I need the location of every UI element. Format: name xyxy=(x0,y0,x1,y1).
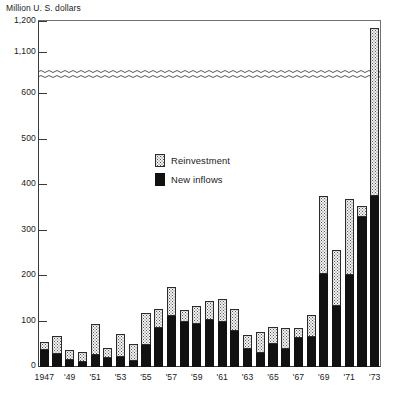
bar-segment-new-inflows xyxy=(294,338,303,367)
bar-segment-new-inflows xyxy=(40,350,49,367)
chart-container: Million U. S. dollars 010020030040050060… xyxy=(0,0,397,397)
bar-segment-new-inflows xyxy=(319,274,328,367)
bar-1955 xyxy=(141,313,150,367)
bar-segment-reinvestment xyxy=(281,328,290,348)
bar-segment-new-inflows xyxy=(281,349,290,367)
bar-segment-reinvestment xyxy=(294,328,303,338)
bar-segment-new-inflows xyxy=(129,361,138,367)
bar-segment-reinvestment xyxy=(370,28,379,195)
y-axis-label: 1,100 xyxy=(0,46,36,56)
bar-segment-new-inflows xyxy=(78,362,87,367)
bar-segment-reinvestment xyxy=(91,324,100,355)
chart-legend: Reinvestment New inflows xyxy=(155,152,230,190)
bar-segment-new-inflows xyxy=(370,196,379,367)
legend-item-new-inflows: New inflows xyxy=(155,171,230,187)
bar-1971 xyxy=(345,199,354,367)
bar-segment-reinvestment xyxy=(205,301,214,321)
bar-1952 xyxy=(103,348,112,367)
bar-segment-reinvestment xyxy=(40,342,49,350)
bar-segment-reinvestment xyxy=(192,306,201,324)
bar-segment-reinvestment xyxy=(65,350,74,360)
bar-segment-reinvestment xyxy=(230,309,239,330)
bar-segment-reinvestment xyxy=(243,335,252,349)
bar-1951 xyxy=(91,324,100,367)
bar-segment-new-inflows xyxy=(91,355,100,367)
legend-swatch-reinvestment xyxy=(155,154,165,167)
bar-1961 xyxy=(218,299,227,367)
bar-segment-new-inflows xyxy=(167,316,176,367)
bar-segment-reinvestment xyxy=(52,336,61,354)
y-axis-label: 500 xyxy=(0,133,36,143)
bar-segment-new-inflows xyxy=(103,358,112,367)
bar-1954 xyxy=(129,344,138,367)
bar-segment-reinvestment xyxy=(116,334,125,358)
y-axis-label: 300 xyxy=(0,224,36,234)
bar-1959 xyxy=(192,306,201,367)
bar-segment-reinvestment xyxy=(332,250,341,306)
bar-segment-reinvestment xyxy=(319,196,328,273)
bar-1948 xyxy=(52,336,61,367)
bar-1970 xyxy=(332,250,341,367)
bar-1972 xyxy=(357,206,366,367)
bar-segment-new-inflows xyxy=(180,322,189,367)
bar-segment-new-inflows xyxy=(307,337,316,367)
bar-segment-reinvestment xyxy=(167,287,176,315)
bar-segment-new-inflows xyxy=(218,322,227,367)
bar-segment-reinvestment xyxy=(154,309,163,328)
legend-label-reinvestment: Reinvestment xyxy=(171,155,230,166)
bar-segment-new-inflows xyxy=(243,349,252,367)
bar-1950 xyxy=(78,352,87,367)
bar-segment-reinvestment xyxy=(345,199,354,275)
bar-segment-new-inflows xyxy=(65,360,74,367)
legend-swatch-new-inflows xyxy=(155,173,165,186)
bar-segment-new-inflows xyxy=(345,275,354,367)
legend-item-reinvestment: Reinvestment xyxy=(155,152,230,168)
bar-1963 xyxy=(243,335,252,367)
bar-1962 xyxy=(230,309,239,367)
bar-segment-new-inflows xyxy=(141,345,150,367)
bar-segment-new-inflows xyxy=(230,331,239,367)
y-axis-label: 0 xyxy=(0,360,36,370)
y-axis-label: 600 xyxy=(0,87,36,97)
bar-series-group xyxy=(38,20,381,367)
bar-1964 xyxy=(256,332,265,367)
bar-1960 xyxy=(205,301,214,367)
bar-segment-reinvestment xyxy=(180,310,189,323)
bar-1969 xyxy=(319,196,328,367)
bar-segment-new-inflows xyxy=(205,320,214,367)
bar-1949 xyxy=(65,350,74,367)
bar-segment-reinvestment xyxy=(268,327,277,344)
y-axis-label: 100 xyxy=(0,315,36,325)
x-axis-label: '73 xyxy=(358,372,392,382)
bar-segment-new-inflows xyxy=(154,328,163,367)
bar-1947 xyxy=(40,342,49,367)
bar-1958 xyxy=(180,310,189,367)
bar-segment-new-inflows xyxy=(52,354,61,367)
bar-segment-reinvestment xyxy=(141,313,150,345)
bar-segment-new-inflows xyxy=(268,344,277,367)
bar-segment-reinvestment xyxy=(218,299,227,322)
bar-segment-new-inflows xyxy=(192,324,201,367)
bar-segment-reinvestment xyxy=(129,344,138,361)
legend-label-new-inflows: New inflows xyxy=(171,174,223,185)
bar-1965 xyxy=(268,327,277,367)
bar-1953 xyxy=(116,334,125,367)
bar-segment-reinvestment xyxy=(256,332,265,353)
bar-segment-reinvestment xyxy=(103,348,112,358)
bar-1957 xyxy=(167,287,176,367)
bar-segment-new-inflows xyxy=(357,217,366,367)
bar-segment-reinvestment xyxy=(357,206,366,216)
bar-segment-reinvestment xyxy=(307,315,316,337)
bar-1956 xyxy=(154,309,163,367)
bar-segment-new-inflows xyxy=(256,353,265,367)
y-axis-label: 1,200 xyxy=(0,15,36,25)
bar-segment-reinvestment xyxy=(78,352,87,362)
bar-1967 xyxy=(294,328,303,367)
y-axis-title: Million U. S. dollars xyxy=(6,3,81,13)
bar-1966 xyxy=(281,328,290,367)
bar-segment-new-inflows xyxy=(332,306,341,367)
bar-1973 xyxy=(370,28,379,367)
bar-segment-new-inflows xyxy=(116,357,125,367)
y-axis-label: 400 xyxy=(0,178,36,188)
y-axis-label: 200 xyxy=(0,269,36,279)
